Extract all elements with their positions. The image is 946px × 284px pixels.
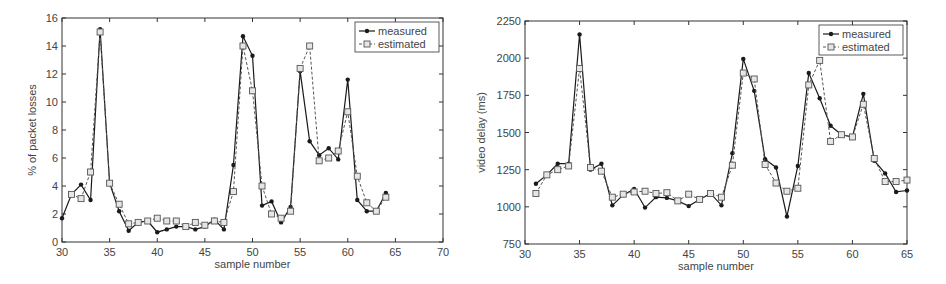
estimated-marker [860,101,866,107]
measured-marker [665,196,669,200]
measured-marker [883,171,887,175]
estimated-marker [664,190,670,196]
estimated-marker [904,177,910,183]
estimated-line [536,60,907,200]
estimated-marker [849,134,855,140]
legend-estimated-label: estimated [842,41,890,53]
measured-marker [741,57,745,61]
estimated-marker [620,191,626,197]
estimated-marker [686,191,692,197]
y-tick-label: 1000 [497,201,521,213]
measured-marker [687,204,691,208]
x-tick-label: 35 [573,248,585,260]
x-axis-label: sample number [678,260,754,272]
measured-marker [577,32,581,36]
y-tick-label: 750 [503,238,521,250]
measured-marker [719,203,723,207]
estimated-marker [740,70,746,76]
measured-marker [796,164,800,168]
measured-marker [599,162,603,166]
measured-marker [861,92,865,96]
estimated-marker [893,179,899,185]
estimated-marker [773,180,779,186]
estimated-marker [882,179,888,185]
measured-marker [556,162,560,166]
y-axis-label: video delay (ms) [475,92,487,173]
estimated-marker [555,167,561,173]
measured-marker [774,165,778,169]
estimated-marker [675,198,681,204]
legend-measured-label: measured [842,28,891,40]
estimated-marker [806,82,812,88]
estimated-marker [839,132,845,138]
video-delay-plot: 3035404550556065750100012501500175020002… [0,0,946,284]
estimated-marker [544,172,550,178]
estimated-marker [631,189,637,195]
estimated-marker [697,196,703,202]
estimated-marker [609,194,615,200]
measured-marker [534,182,538,186]
legend: measuredestimated [819,25,903,55]
estimated-marker [653,190,659,196]
y-tick-label: 1750 [497,89,521,101]
measured-marker [817,96,821,100]
measured-marker [807,71,811,75]
y-tick-label: 1500 [497,127,521,139]
x-tick-label: 40 [628,248,640,260]
estimated-marker [729,162,735,168]
measured-marker [610,203,614,207]
x-tick-label: 50 [737,248,749,260]
legend-measured-marker [829,32,833,36]
estimated-marker [587,164,593,170]
estimated-marker [598,168,604,174]
x-tick-label: 55 [792,248,804,260]
y-tick-label: 2000 [497,52,521,64]
estimated-marker [708,190,714,196]
y-tick-label: 1250 [497,164,521,176]
x-tick-label: 65 [901,248,913,260]
estimated-marker [751,76,757,82]
y-tick-label: 2250 [497,15,521,27]
x-tick-label: 60 [846,248,858,260]
estimated-marker [533,190,539,196]
measured-marker [894,190,898,194]
estimated-marker [871,156,877,162]
video-delay-chart: 3035404550556065750100012501500175020002… [0,0,946,284]
estimated-marker [566,163,572,169]
estimated-marker [784,188,790,194]
estimated-marker [795,185,801,191]
estimated-marker [577,66,583,72]
measured-marker [643,205,647,209]
measured-marker [785,214,789,218]
estimated-marker [642,188,648,194]
measured-line [536,34,907,216]
estimated-marker [762,161,768,167]
estimated-marker [718,194,724,200]
measured-marker [905,188,909,192]
estimated-marker [828,138,834,144]
estimated-marker [817,57,823,63]
legend-estimated-marker [828,44,834,50]
x-tick-label: 45 [683,248,695,260]
